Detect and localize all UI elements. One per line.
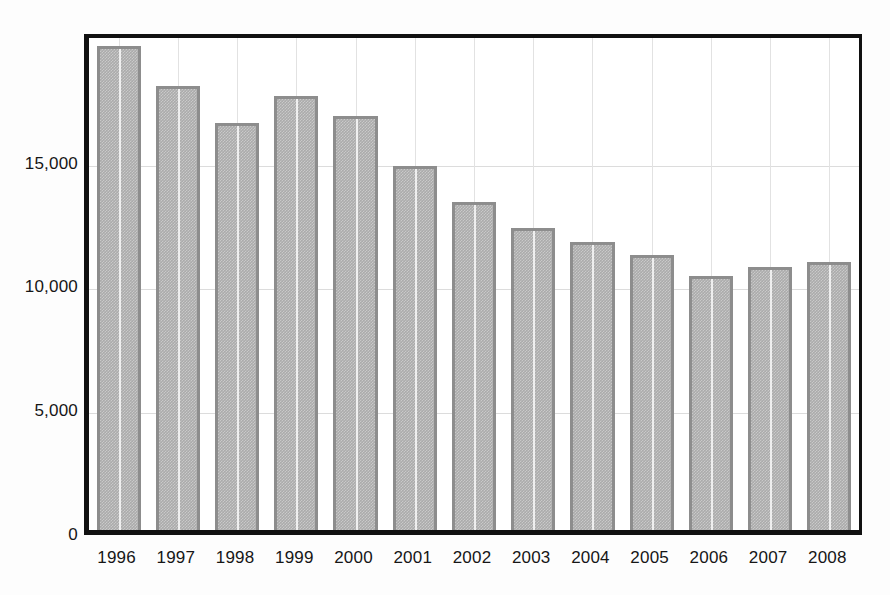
vertical-gridline-1999 (296, 38, 297, 96)
plot-inner (89, 38, 859, 530)
x-tick-label-2008: 2008 (798, 548, 857, 568)
bar-2005[interactable] (630, 255, 674, 530)
y-tick-label-0: 0 (4, 526, 78, 543)
bar-2002[interactable] (452, 202, 496, 530)
x-tick-label-2000: 2000 (324, 548, 383, 568)
x-tick-label-2004: 2004 (561, 548, 620, 568)
y-axis-tick-labels: 15,000 10,000 5,000 0 (0, 0, 78, 595)
vertical-gridline-2002 (474, 38, 475, 202)
x-tick-label-2002: 2002 (442, 548, 501, 568)
bar-2008[interactable] (807, 262, 851, 530)
bar-2000[interactable] (333, 116, 377, 530)
x-tick-label-2001: 2001 (383, 548, 442, 568)
vertical-gridline-2001 (415, 38, 416, 166)
x-tick-label-1999: 1999 (265, 548, 324, 568)
x-tick-label-2003: 2003 (502, 548, 561, 568)
bar-1996[interactable] (97, 46, 141, 530)
bar-chart-figure: 15,000 10,000 5,000 0 199619971998199920… (0, 0, 890, 595)
x-tick-label-1998: 1998 (205, 548, 264, 568)
vertical-gridline-2000 (356, 38, 357, 116)
vertical-gridline-1996 (119, 38, 120, 46)
vertical-gridline-1998 (237, 38, 238, 123)
x-tick-label-1997: 1997 (146, 548, 205, 568)
x-tick-label-2005: 2005 (620, 548, 679, 568)
vertical-gridline-2005 (652, 38, 653, 255)
vertical-gridline-2003 (533, 38, 534, 228)
y-tick-label-15000: 15,000 (4, 155, 78, 172)
y-tick-label-5000: 5,000 (4, 402, 78, 419)
vertical-gridline-2007 (770, 38, 771, 267)
bar-2007[interactable] (748, 267, 792, 530)
bar-1999[interactable] (274, 96, 318, 530)
x-tick-label-1996: 1996 (87, 548, 146, 568)
vertical-gridline-2006 (711, 38, 712, 276)
bar-2001[interactable] (393, 166, 437, 530)
bar-1998[interactable] (215, 123, 259, 530)
vertical-gridline-1997 (178, 38, 179, 86)
bar-2004[interactable] (570, 242, 614, 530)
vertical-gridline-2008 (829, 38, 830, 262)
bar-2003[interactable] (511, 228, 555, 530)
x-axis-tick-labels: 1996199719981999200020012002200320042005… (84, 548, 862, 574)
bar-2006[interactable] (689, 276, 733, 530)
x-tick-label-2006: 2006 (679, 548, 738, 568)
plot-area (84, 34, 862, 535)
x-tick-label-2007: 2007 (739, 548, 798, 568)
y-tick-label-10000: 10,000 (4, 278, 78, 295)
vertical-gridline-2004 (592, 38, 593, 242)
bar-1997[interactable] (156, 86, 200, 530)
